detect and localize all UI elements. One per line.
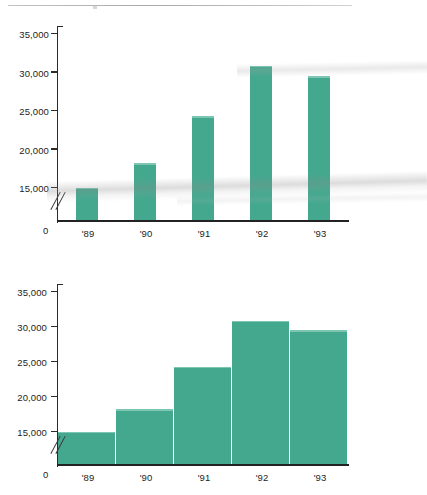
y-tick-20000 xyxy=(51,396,57,397)
x-axis-label-92: '92 xyxy=(256,228,268,239)
upper-bar-chart: 15,00020,00025,00030,00035,000 0 '89'90'… xyxy=(0,14,352,250)
y-tick-25000 xyxy=(51,110,57,111)
x-axis-label-93: '93 xyxy=(314,472,326,483)
bar-highlight xyxy=(232,321,289,323)
bar-93 xyxy=(308,76,329,220)
y-axis-label: 25,000 xyxy=(0,106,49,117)
bar-91 xyxy=(192,116,213,220)
upper-axis-break-icon xyxy=(52,191,65,210)
bar-highlight xyxy=(174,367,231,369)
y-axis-label: 30,000 xyxy=(0,322,47,333)
x-axis-label-91: '91 xyxy=(198,472,210,483)
lower-axis-break-icon xyxy=(52,435,65,454)
bar-93 xyxy=(290,330,348,464)
y-tick-35000 xyxy=(51,33,57,34)
y-tick-25000 xyxy=(51,361,57,362)
x-axis-label-90: '90 xyxy=(140,228,152,239)
y-axis-label: 25,000 xyxy=(0,357,47,368)
upper-zero-label: 0 xyxy=(43,225,48,236)
bar-92 xyxy=(250,66,271,221)
x-axis-label-91: '91 xyxy=(198,228,210,239)
y-axis-label: 15,000 xyxy=(0,183,49,194)
bar-highlight xyxy=(116,409,173,411)
page-rule-mark xyxy=(93,5,97,9)
y-tick-15000 xyxy=(51,187,57,188)
y-axis-label: 20,000 xyxy=(0,392,47,403)
bar-highlight xyxy=(58,432,115,434)
page-top-rule xyxy=(8,5,352,6)
bar-89 xyxy=(58,432,116,465)
bar-highlight xyxy=(134,163,155,165)
bar-90 xyxy=(116,409,174,464)
y-axis-label: 35,000 xyxy=(0,29,49,40)
y-tick-15000 xyxy=(51,431,57,432)
bar-highlight xyxy=(76,188,97,190)
y-tick-20000 xyxy=(51,148,57,149)
y-axis-label: 30,000 xyxy=(0,67,49,78)
bar-highlight xyxy=(192,116,213,118)
upper-plot-area: 15,00020,00025,00030,00035,000 0 xyxy=(57,26,348,222)
upper-bars xyxy=(58,26,348,220)
lower-plot-area: 15,00020,00025,00030,00035,000 0 xyxy=(57,284,348,466)
bar-91 xyxy=(174,367,232,465)
y-axis-label: 15,000 xyxy=(0,427,47,438)
x-axis-label-89: '89 xyxy=(82,472,94,483)
upper-x-axis xyxy=(57,220,349,222)
y-tick-35000 xyxy=(51,291,57,292)
bar-highlight xyxy=(250,66,271,68)
x-axis-label-93: '93 xyxy=(314,228,326,239)
y-axis-label: 20,000 xyxy=(0,144,49,155)
bar-92 xyxy=(232,321,290,465)
x-axis-label-90: '90 xyxy=(140,472,152,483)
y-axis-label: 35,000 xyxy=(0,287,47,298)
bar-highlight xyxy=(290,330,347,332)
lower-bars xyxy=(58,284,348,464)
y-tick-30000 xyxy=(51,326,57,327)
upper-x-labels: '89'90'91'92'93 xyxy=(58,228,348,242)
lower-bar-chart: 15,00020,00025,00030,00035,000 0 '89'90'… xyxy=(0,272,352,495)
bar-89 xyxy=(76,188,97,221)
x-axis-label-89: '89 xyxy=(82,228,94,239)
x-axis-label-92: '92 xyxy=(256,472,268,483)
lower-zero-label: 0 xyxy=(43,469,48,480)
y-tick-30000 xyxy=(51,71,57,72)
lower-x-axis xyxy=(57,464,349,466)
bar-highlight xyxy=(308,76,329,78)
lower-x-labels: '89'90'91'92'93 xyxy=(58,472,348,486)
bar-90 xyxy=(134,163,155,220)
